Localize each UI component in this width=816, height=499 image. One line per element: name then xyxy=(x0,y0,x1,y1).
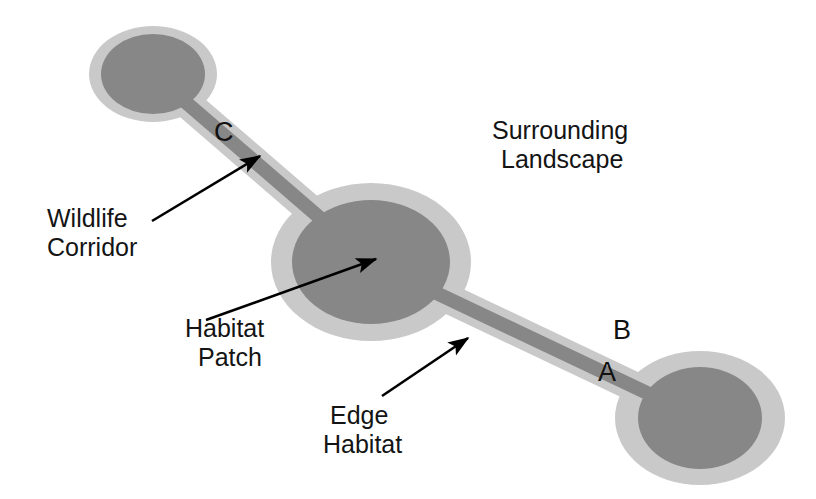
corridor-letter-b: B xyxy=(613,315,631,345)
label-edge-habitat-line2: Habitat xyxy=(323,430,402,458)
label-wildlife-corridor-line1: Wildlife xyxy=(47,204,128,232)
label-surrounding-landscape-line2: Landscape xyxy=(501,145,623,173)
label-habitat-patch-line2: Patch xyxy=(198,343,262,371)
patch-bottom-right-core xyxy=(638,367,762,469)
label-surrounding-landscape-line1: Surrounding xyxy=(492,116,628,144)
label-habitat-patch-line1: Habitat xyxy=(185,314,264,342)
edge-habitat-arrow xyxy=(382,338,468,396)
wildlife-corridor-arrow xyxy=(152,156,260,221)
corridor-letter-a: A xyxy=(598,357,616,387)
corridor-letter-c: C xyxy=(214,117,234,147)
diagram-canvas: Surrounding Landscape Wildlife Corridor … xyxy=(0,0,816,499)
habitat-fragmentation-diagram: Surrounding Landscape Wildlife Corridor … xyxy=(0,0,816,499)
label-edge-habitat-line1: Edge xyxy=(330,401,388,429)
patch-top-left-core xyxy=(101,34,205,114)
label-wildlife-corridor-line2: Corridor xyxy=(47,233,137,261)
